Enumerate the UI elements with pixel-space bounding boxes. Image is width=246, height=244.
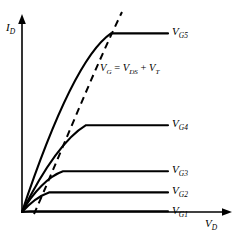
annotation-vt-sub: T — [155, 68, 159, 76]
curve-label-vg2-main: V — [172, 184, 179, 196]
y-axis-label-sub: D — [10, 27, 15, 36]
curve-label-vg4-main: V — [172, 117, 179, 129]
y-axis — [18, 14, 26, 212]
annotation-equals: = — [112, 62, 123, 73]
curve-label-vg1: VG1 — [172, 205, 188, 219]
saturation-condition-annotation: VG = VDS + VT — [100, 63, 159, 76]
annotation-plus: + — [138, 62, 149, 73]
curve-label-vg2-sub: G2 — [179, 190, 188, 199]
y-axis-label: ID — [6, 22, 15, 36]
curve-label-vg4-sub: G4 — [179, 123, 188, 132]
x-axis-label-sub: D — [212, 223, 217, 232]
curve-vg2 — [22, 192, 168, 212]
plot-canvas — [0, 0, 246, 244]
annotation-vds-sub: DS — [129, 68, 138, 76]
x-axis-label-main: V — [205, 217, 212, 229]
curve-vg5 — [22, 33, 168, 212]
curve-label-vg1-main: V — [172, 204, 179, 216]
curve-label-vg3-main: V — [172, 163, 179, 175]
curve-label-vg5: VG5 — [172, 26, 188, 40]
up-arrow-icon — [18, 14, 26, 24]
curve-label-vg5-main: V — [172, 25, 179, 37]
curve-label-vg3: VG3 — [172, 164, 188, 178]
curve-label-vg5-sub: G5 — [179, 31, 188, 40]
curve-vg1 — [22, 211, 168, 212]
curve-label-vg3-sub: G3 — [179, 169, 188, 178]
saturation-locus-dashed-line — [34, 12, 122, 214]
mosfet-iv-characteristic-figure: ID VD VG = VDS + VT VG5 VG4 VG3 VG2 VG1 — [0, 0, 246, 244]
curve-vg4 — [22, 125, 168, 212]
curve-label-vg1-sub: G1 — [179, 210, 188, 219]
right-arrow-icon — [222, 208, 232, 216]
curve-label-vg2: VG2 — [172, 185, 188, 199]
x-axis-label: VD — [205, 218, 217, 232]
curve-label-vg4: VG4 — [172, 118, 188, 132]
